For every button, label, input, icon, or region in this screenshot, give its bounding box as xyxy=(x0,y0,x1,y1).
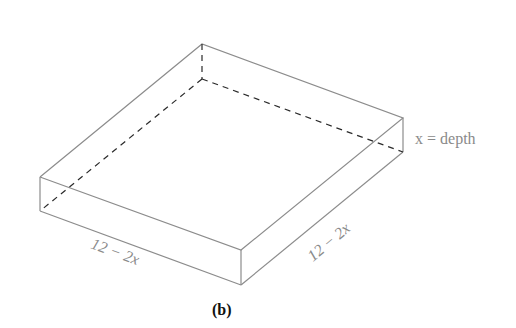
figure-caption: (b) xyxy=(212,301,232,319)
front-edge-label: 12 − 2x xyxy=(89,235,142,268)
right-edge-label: 12 − 2x xyxy=(304,219,353,264)
hidden-edges xyxy=(40,44,403,211)
top-rim xyxy=(40,44,403,250)
hidden-left-bottom-edge xyxy=(40,79,202,211)
front-bottom-edge xyxy=(40,211,241,285)
box-diagram: x = depth 12 − 2x 12 − 2x (b) xyxy=(0,0,516,328)
open-box-drawing: x = depth 12 − 2x 12 − 2x (b) xyxy=(0,0,516,328)
hidden-back-bottom-edge xyxy=(202,79,403,152)
right-bottom-edge xyxy=(241,152,403,285)
depth-label: x = depth xyxy=(415,130,476,148)
